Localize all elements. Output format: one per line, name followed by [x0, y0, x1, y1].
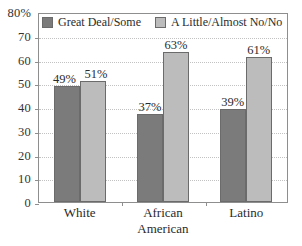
legend-item[interactable]: A Little/Almost No/No: [155, 16, 282, 28]
bar[interactable]: 49%: [54, 86, 80, 202]
x-axis-category-line: White: [38, 205, 121, 221]
bar-wrap: 51%: [80, 14, 106, 202]
y-axis: 80%706050403020100: [0, 0, 38, 246]
bar-value-label: 39%: [221, 96, 244, 109]
bar-value-label: 37%: [139, 101, 162, 114]
x-axis-category-label: AfricanAmerican: [122, 205, 205, 237]
plot-frame: 49%51%37%63%39%61%: [38, 13, 288, 203]
legend-item[interactable]: Great Deal/Some: [42, 16, 141, 28]
bar-value-label: 49%: [53, 73, 76, 86]
bar[interactable]: 61%: [246, 57, 272, 202]
y-axis-tick-mark: [35, 85, 39, 86]
y-axis-tick-label: 70: [18, 31, 31, 43]
bar-wrap: 37%: [137, 14, 163, 202]
legend-label: Great Deal/Some: [58, 16, 141, 28]
bar[interactable]: 39%: [220, 109, 246, 202]
bar-group: 39%61%: [220, 14, 272, 202]
y-axis-tick-label: 60: [18, 55, 31, 67]
bar[interactable]: 51%: [80, 81, 106, 202]
bar-wrap: 63%: [163, 14, 189, 202]
legend-swatch: [42, 17, 53, 28]
y-axis-tick-mark: [35, 109, 39, 110]
x-axis-category-label: White: [38, 205, 121, 237]
y-axis-tick-mark: [35, 38, 39, 39]
bar-value-label: 63%: [165, 39, 188, 52]
bar-value-label: 51%: [85, 68, 108, 81]
x-axis-category-line: African: [122, 205, 205, 221]
y-axis-tick-label: 40: [18, 102, 31, 114]
bar-wrap: 49%: [54, 14, 80, 202]
y-axis-tick-mark: [35, 133, 39, 134]
bar-group: 37%63%: [137, 14, 189, 202]
bar-group: 49%51%: [54, 14, 106, 202]
bars-layer: 49%51%37%63%39%61%: [39, 14, 287, 202]
x-axis-category-line: Latino: [205, 205, 288, 221]
y-axis-tick-mark: [35, 157, 39, 158]
plot-area: 49%51%37%63%39%61%: [39, 14, 287, 202]
bar-chart: 80%706050403020100 49%51%37%63%39%61% Wh…: [0, 0, 302, 246]
x-axis-category-label: Latino: [205, 205, 288, 237]
y-axis-tick-label: 0: [25, 197, 31, 209]
y-axis-tick-label: 10: [18, 173, 31, 185]
y-axis-tick-mark: [35, 180, 39, 181]
y-axis-tick-mark: [35, 62, 39, 63]
bar[interactable]: 63%: [163, 52, 189, 202]
y-axis-tick-label: 30: [18, 126, 31, 138]
legend-swatch: [155, 17, 166, 28]
legend-label: A Little/Almost No/No: [171, 16, 282, 28]
bar-value-label: 61%: [247, 44, 270, 57]
x-axis-category-line: American: [122, 221, 205, 237]
chart-legend: Great Deal/SomeA Little/Almost No/No: [42, 16, 282, 28]
bar[interactable]: 37%: [137, 114, 163, 202]
y-axis-tick-label: 20: [18, 150, 31, 162]
bar-wrap: 61%: [246, 14, 272, 202]
y-axis-tick-label: 80%: [7, 7, 31, 19]
y-axis-tick-label: 50: [18, 78, 31, 90]
x-axis: WhiteAfricanAmericanLatino: [38, 205, 288, 237]
bar-wrap: 39%: [220, 14, 246, 202]
